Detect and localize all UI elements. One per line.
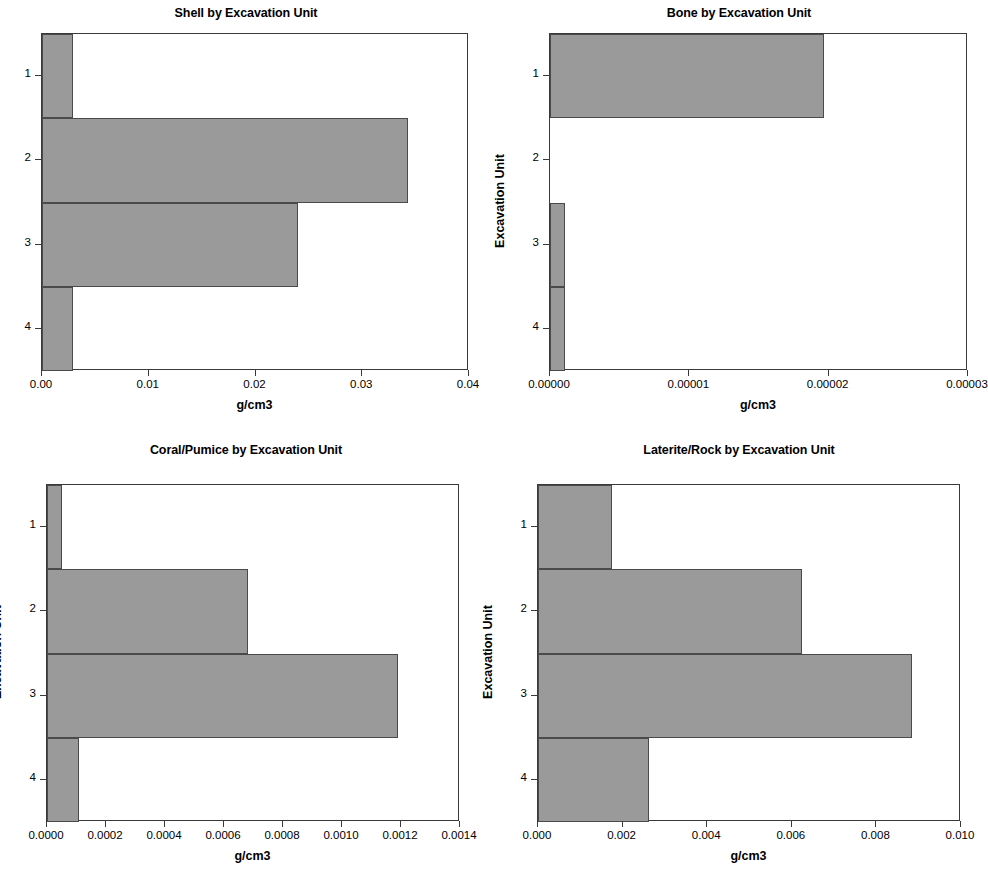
x-axis-tick	[828, 370, 829, 376]
y-axis-tick-label: 3	[12, 687, 36, 699]
y-axis-tick-label: 1	[7, 67, 31, 79]
y-axis-tick	[35, 328, 41, 329]
x-axis-tick	[967, 370, 968, 376]
x-axis-tick-label: 0.0002	[87, 829, 122, 841]
x-axis-tick-label: 0.0006	[205, 829, 240, 841]
chart-title: Bone by Excavation Unit	[493, 6, 985, 20]
y-axis-tick	[531, 779, 537, 780]
y-axis-tick	[543, 75, 549, 76]
y-axis-tick-label: 4	[515, 320, 539, 332]
x-axis-tick-label: 0.04	[457, 378, 479, 390]
y-axis-tick	[40, 779, 46, 780]
x-axis-tick	[549, 370, 550, 376]
bar	[550, 34, 824, 118]
x-axis-tick-label: 0.02	[243, 378, 265, 390]
x-axis-tick-label: 0.004	[692, 829, 721, 841]
bar-series	[550, 34, 966, 369]
x-axis-tick-label: 0.0008	[264, 829, 299, 841]
y-axis-title: Excavation Unit	[492, 32, 506, 369]
chart-title: Shell by Excavation Unit	[0, 6, 492, 20]
plot-area	[537, 484, 960, 821]
bar	[42, 34, 73, 118]
y-axis-tick-label: 4	[7, 320, 31, 332]
bar	[47, 569, 248, 653]
bar	[550, 287, 565, 371]
chart-panel: Coral/Pumice by Excavation Unit1234Excav…	[0, 437, 492, 874]
x-axis-tick-label: 0.0000	[28, 829, 63, 841]
y-axis-tick-label: 3	[515, 236, 539, 248]
x-axis-tick-label: 0.010	[946, 829, 975, 841]
y-axis-tick	[543, 244, 549, 245]
x-axis-tick-label: 0.00	[30, 378, 52, 390]
x-axis-tick-label: 0.002	[607, 829, 636, 841]
x-axis-tick	[41, 370, 42, 376]
bar	[47, 738, 79, 822]
x-axis-title: g/cm3	[46, 849, 459, 863]
bar	[538, 738, 649, 822]
y-axis-tick-label: 3	[503, 687, 527, 699]
y-axis-tick-label: 4	[503, 771, 527, 783]
x-axis-tick	[875, 821, 876, 827]
y-axis-tick	[543, 159, 549, 160]
bar	[538, 485, 612, 569]
y-axis-tick	[40, 695, 46, 696]
x-axis-tick-label: 0.01	[137, 378, 159, 390]
x-axis-tick	[223, 821, 224, 827]
plot-area	[549, 33, 967, 370]
bar	[47, 654, 398, 738]
x-axis-tick	[361, 370, 362, 376]
x-axis-tick	[706, 821, 707, 827]
x-axis-tick	[282, 821, 283, 827]
x-axis-tick	[164, 821, 165, 827]
y-axis-tick	[543, 328, 549, 329]
y-axis-title: Excavation Unit	[0, 483, 3, 820]
bar	[538, 569, 802, 653]
x-axis-tick	[46, 821, 47, 827]
y-axis-tick	[35, 244, 41, 245]
bar	[42, 118, 408, 202]
plot-area	[46, 484, 459, 821]
x-axis-tick	[537, 821, 538, 827]
chart-panel: Laterite/Rock by Excavation Unit1234Exca…	[493, 437, 985, 874]
y-axis-tick-label: 4	[12, 771, 36, 783]
y-axis-tick-label: 1	[12, 518, 36, 530]
bar	[42, 203, 298, 287]
x-axis-tick	[960, 821, 961, 827]
x-axis-tick	[622, 821, 623, 827]
y-axis-tick	[35, 75, 41, 76]
y-axis-tick	[531, 526, 537, 527]
chart-panel: Shell by Excavation Unit1234Excavation U…	[0, 0, 492, 437]
x-axis-tick-label: 0.0012	[382, 829, 417, 841]
x-axis-tick-label: 0.0010	[323, 829, 358, 841]
y-axis-tick-label: 3	[7, 236, 31, 248]
x-axis-title: g/cm3	[549, 398, 967, 412]
x-axis-tick-label: 0.00002	[807, 378, 849, 390]
bar-series	[47, 485, 458, 820]
y-axis-tick-label: 1	[515, 67, 539, 79]
y-axis-title: Excavation Unit	[480, 483, 494, 820]
x-axis-tick-label: 0.0004	[146, 829, 181, 841]
y-axis-tick-label: 1	[503, 518, 527, 530]
x-axis-tick-label: 0.008	[861, 829, 890, 841]
x-axis-tick-label: 0.0014	[441, 829, 476, 841]
bar	[550, 203, 565, 287]
y-axis-tick	[531, 610, 537, 611]
y-axis-tick-label: 2	[515, 151, 539, 163]
bar	[42, 287, 73, 371]
y-axis-tick-label: 2	[12, 602, 36, 614]
x-axis-tick-label: 0.000	[523, 829, 552, 841]
chart-title: Coral/Pumice by Excavation Unit	[0, 443, 492, 457]
x-axis-tick-label: 0.006	[776, 829, 805, 841]
x-axis-tick-label: 0.00000	[528, 378, 570, 390]
x-axis-tick	[105, 821, 106, 827]
chart-panel: Bone by Excavation Unit1234Excavation Un…	[493, 0, 985, 437]
chart-title: Laterite/Rock by Excavation Unit	[493, 443, 985, 457]
x-axis-tick	[459, 821, 460, 827]
x-axis-tick-label: 0.03	[350, 378, 372, 390]
y-axis-tick-label: 2	[7, 151, 31, 163]
y-axis-tick-label: 2	[503, 602, 527, 614]
x-axis-tick	[255, 370, 256, 376]
bar	[538, 654, 912, 738]
y-axis-tick	[531, 695, 537, 696]
